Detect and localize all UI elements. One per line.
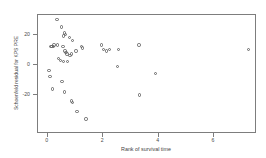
data-point (68, 54, 71, 57)
x-axis-tick-label: 2 (101, 137, 104, 143)
data-point (71, 39, 74, 42)
data-point (75, 110, 78, 113)
y-axis-tick-label: -20 (23, 91, 31, 97)
data-point (55, 18, 58, 21)
y-axis-tick-label: 20 (24, 31, 30, 37)
data-point (48, 75, 51, 78)
data-point (52, 43, 55, 46)
data-point (62, 60, 65, 63)
data-point (108, 48, 111, 51)
data-point (71, 101, 74, 104)
data-point (51, 87, 54, 90)
data-point (74, 49, 77, 52)
data-point (154, 72, 157, 75)
data-point (56, 43, 59, 46)
data-point (116, 65, 119, 68)
data-point (62, 34, 65, 37)
data-point (60, 25, 63, 28)
data-point (84, 117, 87, 120)
data-point (100, 43, 103, 46)
data-point (137, 43, 140, 46)
data-point (117, 48, 120, 51)
x-axis-label: Rank of survival time (121, 146, 171, 152)
x-axis-tick-label: 4 (156, 137, 159, 143)
y-axis-tick (33, 94, 37, 95)
x-axis-tick-label: 6 (212, 137, 215, 143)
data-point (247, 48, 250, 51)
x-axis-tick-label: 0 (45, 137, 48, 143)
y-axis-tick (33, 64, 37, 65)
plot-frame (37, 14, 256, 133)
data-points-layer (38, 15, 255, 132)
data-point (63, 90, 66, 93)
data-point (81, 46, 84, 49)
y-axis-tick (33, 34, 37, 35)
y-axis-label: Schoenfeld residual for KPS PRE (13, 36, 19, 110)
data-point (47, 69, 50, 72)
data-point (61, 45, 64, 48)
y-axis-tick-label: 0 (27, 61, 30, 67)
scatter-plot-figure: 0246200-20 Rank of survival time Schoenf… (0, 0, 266, 158)
data-point (60, 80, 63, 83)
data-point (138, 93, 141, 96)
data-point (66, 60, 69, 63)
